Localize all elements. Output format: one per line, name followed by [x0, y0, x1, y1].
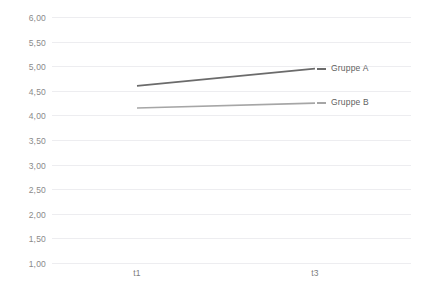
series-line-gruppe-b	[137, 103, 315, 108]
legend-swatch-gruppe-b	[317, 102, 326, 104]
series-lines	[0, 0, 431, 297]
series-label-gruppe-b: Gruppe B	[331, 97, 369, 107]
line-chart: 6,00 5,50 5,00 4,50 4,00 3,50 3,00 2,50 …	[0, 0, 431, 297]
legend-swatch-gruppe-a	[317, 68, 326, 70]
series-label-gruppe-a: Gruppe A	[331, 63, 369, 73]
series-line-gruppe-a	[137, 69, 315, 86]
